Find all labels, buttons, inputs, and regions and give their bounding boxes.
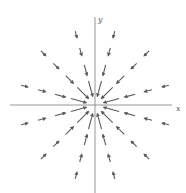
vector-field-diagram: x y (0, 0, 186, 193)
vector-arrow (144, 118, 152, 120)
vector-arrow (55, 94, 66, 97)
vector-arrow (75, 31, 77, 38)
vector-arrow (41, 51, 46, 56)
vector-arrow (75, 172, 77, 179)
vector-arrow (131, 63, 137, 69)
vector-arrow (117, 76, 125, 84)
vector-arrow (162, 85, 169, 87)
vector-arrow (104, 107, 119, 111)
vector-arrow (144, 154, 149, 159)
x-axis-label: x (176, 104, 181, 113)
vector-arrow (80, 154, 82, 162)
vector-arrow (162, 123, 169, 125)
vector-arrow (21, 85, 28, 87)
vector-arrow (131, 141, 137, 147)
vector-arrow (108, 48, 110, 56)
vector-arrow (53, 63, 59, 69)
vector-arrow (84, 135, 87, 146)
vector-arrow (101, 111, 112, 122)
vector-arrow (125, 94, 136, 97)
vector-arrow (144, 51, 149, 56)
vector-arrow (84, 65, 87, 76)
vector-arrow (104, 99, 119, 103)
y-axis-label: y (97, 15, 103, 24)
vector-arrow (77, 111, 88, 122)
vector-arrow (89, 114, 93, 129)
vector-arrow (101, 87, 112, 98)
vector-arrow (97, 114, 101, 129)
vector-arrow (103, 135, 106, 146)
vector-arrow (71, 99, 86, 103)
vector-arrow (89, 81, 93, 96)
vector-arrow (38, 90, 46, 92)
vector-arrow (144, 90, 152, 92)
vector-arrow (66, 76, 74, 84)
vector-arrow (38, 118, 46, 120)
vector-arrow (71, 107, 86, 111)
vector-arrow (80, 48, 82, 56)
vector-arrow (117, 127, 125, 135)
vector-arrow (53, 141, 59, 147)
vector-arrow (125, 113, 136, 116)
vector-arrow (21, 123, 28, 125)
vector-arrow (113, 31, 115, 38)
vector-arrow (77, 87, 88, 98)
vector-arrow (97, 81, 101, 96)
vector-arrow (41, 154, 46, 159)
vector-arrow (55, 113, 66, 116)
vector-arrow (66, 127, 74, 135)
vector-arrow (103, 65, 106, 76)
vector-arrow (108, 154, 110, 162)
vector-arrow (113, 172, 115, 179)
